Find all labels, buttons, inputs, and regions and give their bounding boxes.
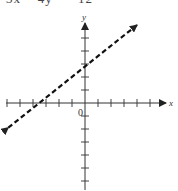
graph-line-dashed xyxy=(8,25,137,128)
y-axis-label: y xyxy=(81,12,86,22)
origin-label: 0 xyxy=(78,107,83,118)
x-axis-label: x xyxy=(168,98,173,108)
coordinate-plane: x y 0 xyxy=(0,0,178,191)
